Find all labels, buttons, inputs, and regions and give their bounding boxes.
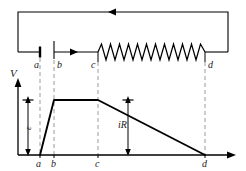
x-tick-label-d: d xyxy=(202,159,207,169)
graph-x-axis-arrowhead xyxy=(227,152,236,159)
current-arrow-top xyxy=(108,9,116,16)
circuit-label-b: b xyxy=(57,60,62,70)
x-tick-label-a: a xyxy=(36,159,41,169)
circuit-label-d: d xyxy=(208,60,213,70)
resistor-symbol xyxy=(98,44,205,60)
circuit-outer-loop-wire xyxy=(18,12,228,52)
x-tick-label-b: b xyxy=(51,159,56,169)
resistive-drop-label: iR xyxy=(118,120,127,130)
graph-y-axis-arrowhead xyxy=(15,78,22,87)
circuit-label-a: a xyxy=(34,60,39,70)
circuit-label-c: c xyxy=(91,60,95,70)
x-tick-label-c: c xyxy=(95,159,99,169)
circuit-potential-figure xyxy=(0,0,246,171)
graph-y-axis-label: V xyxy=(10,68,17,79)
emf-label: ε xyxy=(23,126,33,130)
current-arrow-bottom xyxy=(70,49,78,56)
